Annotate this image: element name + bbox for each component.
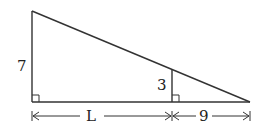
label-base-left: L [86, 107, 96, 125]
right-angle-marker-left [32, 95, 39, 102]
label-large-height: 7 [17, 57, 27, 75]
triangle-diagram: 7 3 L 9 [0, 0, 260, 132]
hypotenuse-segment [32, 11, 250, 102]
label-base-right: 9 [199, 107, 209, 125]
right-angle-marker-inner [172, 95, 179, 102]
label-small-height: 3 [157, 76, 167, 94]
